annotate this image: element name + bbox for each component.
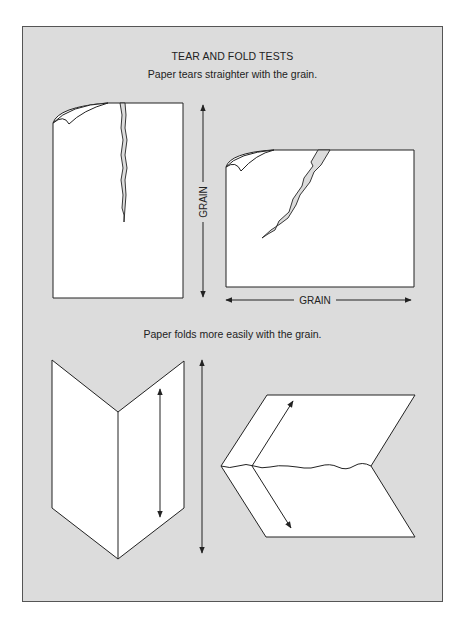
diagram-artwork: GRAIN GRAIN (0, 0, 466, 620)
grain-arrow-vertical: GRAIN (198, 105, 209, 297)
grain-arrow-horizontal: GRAIN (226, 295, 411, 306)
fold-against-grain-diagram (221, 395, 415, 537)
tear-against-grain-diagram (226, 150, 414, 287)
grain-label-vertical: GRAIN (198, 186, 209, 218)
tear-with-grain-diagram (53, 103, 183, 298)
fold-with-grain-diagram (52, 360, 184, 559)
grain-label-horizontal: GRAIN (299, 295, 331, 306)
